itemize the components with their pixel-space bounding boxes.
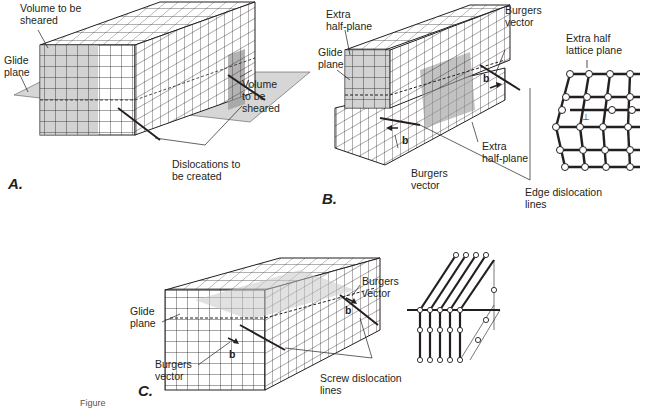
label-b-top: b (483, 72, 489, 84)
label-b-left: b (229, 348, 235, 360)
label-b-bottom: b (402, 134, 408, 146)
figure-caption: Figure (80, 398, 106, 408)
screw-dislocation-lattice (407, 252, 500, 362)
panel-letter-c: C. (138, 382, 153, 399)
label-extra-half-plane-right: Extra half-plane (482, 140, 528, 164)
label-screw-dislocation-lines: Screw dislocation lines (320, 372, 402, 396)
label-burgers-vector-left-c: Burgers vector (155, 358, 192, 382)
label-burgers-vector-top-b: Burgers vector (505, 4, 542, 28)
label-edge-dislocation-lines: Edge dislocation lines (525, 186, 602, 210)
label-glide-plane-a: Glide plane (4, 54, 30, 78)
panel-letter-a: A. (8, 175, 23, 192)
label-extra-half-lattice-plane: Extra half lattice plane (566, 32, 622, 56)
panel-c-block (162, 258, 380, 390)
panel-letter-b: B. (322, 190, 337, 207)
label-burgers-vector-bottom-b: Burgers vector (411, 167, 448, 191)
edge-dislocation-lattice (553, 60, 641, 171)
label-b-right: b (345, 304, 351, 316)
label-glide-plane-c: Glide plane (130, 305, 156, 329)
label-dislocations-to-be-created: Dislocations to be created (172, 158, 240, 182)
label-glide-plane-b: Glide plane (318, 46, 344, 70)
label-volume-to-be-sheared-right: Volume to be sheared (242, 78, 280, 114)
label-extra-half-plane-top: Extra half-plane (326, 8, 372, 32)
label-volume-to-be-sheared-top: Volume to be sheared (20, 2, 81, 26)
dislocation-symbol: ⊥ (582, 111, 590, 123)
label-burgers-vector-right-c: Burgers vector (362, 275, 399, 299)
